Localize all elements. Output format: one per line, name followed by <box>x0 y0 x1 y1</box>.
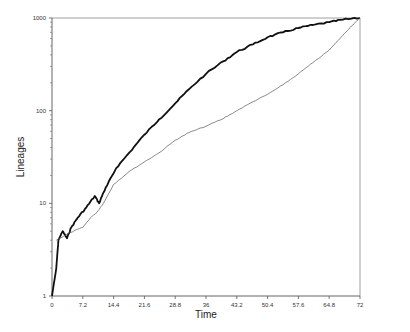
x-tick-label: 72 <box>357 302 364 308</box>
thick-series-line <box>52 18 360 296</box>
x-tick-label: 36 <box>203 302 210 308</box>
x-axis-title: Time <box>195 309 217 320</box>
y-axis-ticks: 1101001000 <box>33 15 52 299</box>
x-tick-label: 64.8 <box>323 302 335 308</box>
x-tick-label: 14.4 <box>108 302 120 308</box>
x-axis-ticks: 07.214.421.628.83643.250.457.664.872 <box>50 296 364 308</box>
plot-frame <box>52 18 360 296</box>
y-tick-label: 10 <box>39 200 46 206</box>
y-tick-label: 1000 <box>33 15 47 21</box>
x-tick-label: 0 <box>50 302 54 308</box>
x-tick-label: 57.6 <box>293 302 305 308</box>
x-tick-label: 50.4 <box>262 302 274 308</box>
y-tick-label: 100 <box>36 108 47 114</box>
thin-series-line <box>56 18 360 240</box>
x-tick-label: 7.2 <box>79 302 88 308</box>
x-tick-label: 43.2 <box>231 302 243 308</box>
lineages-chart: 1101001000 07.214.421.628.83643.250.457.… <box>0 0 410 332</box>
y-tick-label: 1 <box>43 293 47 299</box>
y-axis-title: Lineages <box>15 137 26 178</box>
x-tick-label: 28.8 <box>169 302 181 308</box>
series-layer <box>52 18 360 296</box>
x-tick-label: 21.6 <box>139 302 151 308</box>
